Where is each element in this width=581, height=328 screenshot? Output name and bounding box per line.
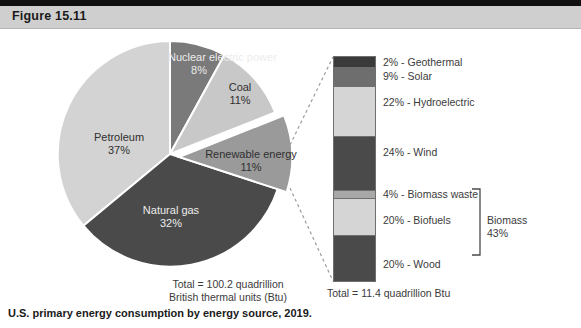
- biomass-group-name: Biomass: [487, 214, 527, 226]
- bar-total-caption: Total = 11.4 quadrillion Btu: [327, 287, 507, 299]
- biomass-bracket-path: [472, 189, 480, 255]
- pie-total-caption: Total = 100.2 quadrillion British therma…: [118, 278, 338, 304]
- figure-caption: U.S. primary energy consumption by energ…: [8, 307, 312, 319]
- biomass-bracket: [0, 28, 581, 296]
- biomass-group-label: Biomass 43%: [487, 214, 527, 240]
- figure-canvas: Nuclear electric power 8% Coal 11% Petro…: [0, 28, 581, 296]
- figure-header-band: [0, 6, 581, 29]
- biomass-group-pct: 43%: [487, 227, 508, 239]
- figure-number-label: Figure 15.11: [12, 9, 87, 23]
- pie-total-line-1: Total = 100.2 quadrillion: [172, 278, 283, 290]
- pie-total-line-2: British thermal units (Btu): [169, 291, 287, 303]
